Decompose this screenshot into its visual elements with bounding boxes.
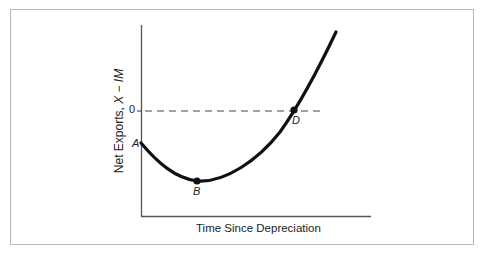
y-tick-zero: 0 [129, 103, 135, 115]
x-axis-label: Time Since Depreciation [196, 222, 321, 234]
point-d-marker [290, 106, 297, 113]
j-curve-chart [0, 0, 488, 257]
y-axis-label: Net Exports, X − IM [112, 69, 126, 173]
j-curve-line [141, 32, 336, 181]
point-b-marker [193, 177, 200, 184]
point-b-label: B [193, 185, 200, 197]
point-a-label: A [132, 137, 139, 149]
point-d-label: D [292, 114, 300, 126]
